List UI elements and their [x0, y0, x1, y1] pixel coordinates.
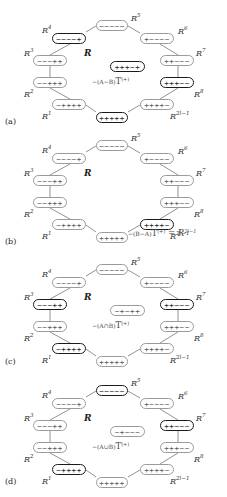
label-r4: R4 — [42, 389, 52, 400]
node-r8: +++−− — [160, 442, 194, 453]
node-r3: −−−++ — [33, 175, 67, 186]
label-r6: R6 — [178, 25, 188, 36]
diagram-panel-d: −−−−− −−−−+ +−−−− −−−++ ++−−− −−+++ +++−… — [0, 365, 227, 485]
node-r1: −++++ — [52, 343, 86, 354]
label-r6: R6 — [178, 145, 188, 156]
label-r7: R7 — [196, 47, 206, 58]
label-r2: R2 — [24, 88, 34, 99]
node-center: −+−−− — [110, 426, 145, 437]
label-r5: R5 — [131, 256, 141, 267]
node-r8: +++−− — [160, 197, 194, 208]
label-r3: R3 — [24, 412, 34, 423]
label-r2l-1: R2l−1 — [170, 354, 189, 365]
label-r5: R5 — [131, 132, 141, 143]
node-r5: −−−−− — [96, 264, 128, 275]
node-r5: −−−−− — [96, 385, 128, 396]
region-label: R — [84, 292, 91, 302]
node-r1: −++++ — [52, 99, 86, 110]
label-r2: R2 — [24, 332, 34, 343]
panel-label-d: (d) — [5, 477, 16, 486]
node-r2l-1: ++++− — [140, 343, 174, 354]
node-r0: +++++ — [96, 477, 128, 488]
formula-label: −(B−A)T(+) = R2l−1 — [128, 228, 196, 238]
node-r2l-1: ++++− — [140, 99, 174, 110]
region-label: R — [84, 48, 91, 58]
node-r6: +−−−− — [140, 277, 174, 288]
node-r2: −−+++ — [33, 197, 67, 208]
node-r4: −−−−+ — [52, 153, 86, 164]
node-r5: −−−−− — [96, 20, 128, 31]
node-r0: +++++ — [96, 232, 128, 243]
formula-label: −(A−B)T(+) — [92, 76, 129, 86]
label-r1: R1 — [42, 230, 52, 241]
node-r2: −−+++ — [33, 442, 67, 453]
label-r1: R1 — [42, 354, 52, 365]
label-r8: R8 — [194, 208, 204, 219]
node-center: +++−+ — [110, 61, 145, 72]
formula-label: −(A∪B)T(+) — [92, 441, 129, 451]
label-r7: R7 — [196, 291, 206, 302]
label-r4: R4 — [42, 24, 52, 35]
label-r2: R2 — [24, 453, 34, 464]
label-r2l-1: R2l−1 — [170, 475, 189, 486]
label-r5: R5 — [131, 377, 141, 388]
node-r5: −−−−− — [96, 140, 128, 151]
node-r3: −−−++ — [33, 55, 67, 66]
label-r6: R6 — [178, 269, 188, 280]
label-r8: R8 — [194, 88, 204, 99]
diagram-panel-b: −−−−− −−−−+ +−−−− −−−++ ++−−− −−+++ +++−… — [0, 120, 227, 240]
node-r7: ++−−− — [160, 299, 194, 310]
label-r4: R4 — [42, 144, 52, 155]
node-r4: −−−−+ — [52, 398, 86, 409]
panel-label-a: (a) — [5, 117, 16, 126]
node-r2: −−+++ — [33, 77, 67, 88]
label-r3: R3 — [24, 47, 34, 58]
node-center: −+−++ — [110, 305, 145, 316]
region-label: R — [84, 413, 91, 423]
node-r4: −−−−+ — [52, 33, 86, 44]
label-r7: R7 — [196, 167, 206, 178]
node-r3: −−−++ — [33, 420, 67, 431]
node-r8: +++−− — [160, 321, 194, 332]
region-label: R — [84, 168, 91, 178]
node-r6: +−−−− — [140, 153, 174, 164]
label-r8: R8 — [194, 453, 204, 464]
diagram-panel-c: −−−−− −−−−+ +−−−− −−−++ ++−−− −−+++ +++−… — [0, 244, 227, 364]
node-r1: −++++ — [52, 219, 86, 230]
label-r5: R5 — [131, 12, 141, 23]
node-r7: ++−−− — [160, 175, 194, 186]
node-r7: ++−−− — [160, 55, 194, 66]
node-r4: −−−−+ — [52, 277, 86, 288]
panel-label-b: (b) — [5, 237, 16, 246]
label-r2: R2 — [24, 208, 34, 219]
node-r3: −−−++ — [33, 299, 67, 310]
node-r8: +++−− — [160, 77, 194, 88]
node-r2: −−+++ — [33, 321, 67, 332]
label-r1: R1 — [42, 475, 52, 486]
label-r3: R3 — [24, 167, 34, 178]
diagram-panel-a: −−−−− −−−−+ +−−−− −−−++ ++−−− −−+++ +++−… — [0, 0, 227, 120]
node-r2l-1: ++++− — [140, 464, 174, 475]
formula-label: −(A∩B)T(+) — [92, 320, 129, 330]
node-r6: +−−−− — [140, 398, 174, 409]
node-r1: −++++ — [52, 464, 86, 475]
node-r6: +−−−− — [140, 33, 174, 44]
node-r7: ++−−− — [160, 420, 194, 431]
label-r7: R7 — [196, 412, 206, 423]
panel-label-c: (c) — [5, 357, 16, 366]
label-r4: R4 — [42, 268, 52, 279]
label-r8: R8 — [194, 332, 204, 343]
label-r3: R3 — [24, 291, 34, 302]
label-r6: R6 — [178, 390, 188, 401]
